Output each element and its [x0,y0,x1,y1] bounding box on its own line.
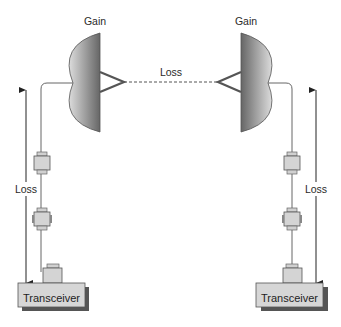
right-gain-label: Gain [235,15,257,27]
right-transceiver-label: Transceiver [261,292,318,304]
link-budget-diagram: Loss Gain Gain L [0,0,341,327]
left-cable-loss-label: Loss [15,183,37,195]
left-connector-1 [34,152,50,174]
right-cable-loss-label: Loss [305,183,327,195]
left-cable [41,83,73,272]
left-gain-label: Gain [84,15,106,27]
right-connector-2 [282,208,302,230]
right-connector-1 [284,152,300,174]
left-transceiver-label: Transceiver [23,292,80,304]
right-antenna-dish [218,33,272,132]
right-transceiver: Transceiver [256,264,328,311]
left-transceiver: Transceiver [18,264,89,311]
left-antenna-dish [69,33,124,132]
left-connector-2 [32,208,52,230]
right-cable [268,83,292,272]
free-space-loss-label: Loss [160,66,182,78]
